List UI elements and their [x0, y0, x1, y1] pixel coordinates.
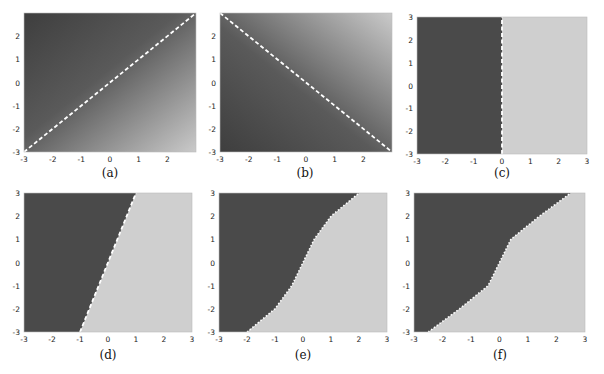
y-tick-label: -1	[209, 102, 217, 111]
caption-f: (f)	[480, 348, 520, 362]
panel-b: -3-2-1012-3-2-1012 (b)	[200, 0, 400, 187]
y-tick-label: -1	[208, 282, 216, 291]
x-tick-label: -2	[245, 155, 253, 164]
panel-e: -3-2-10123-3-2-10123 (e)	[200, 187, 400, 374]
y-tick-label: -1	[13, 102, 21, 111]
y-tick-label: 1	[210, 235, 215, 244]
x-tick-label: 0	[106, 335, 111, 344]
plot-c: -3-2-10123-3-2-10123	[400, 0, 604, 160]
x-tick-label: -2	[439, 335, 447, 344]
y-tick-label: -3	[406, 150, 414, 159]
y-tick-label: 3	[210, 189, 215, 198]
x-tick-label: -1	[76, 335, 84, 344]
y-tick-label: -1	[403, 282, 411, 291]
plot-f: -3-2-10123-3-2-10123	[400, 187, 604, 347]
y-tick-label: 3	[15, 189, 20, 198]
plot-b: -3-2-1012-3-2-1012	[200, 0, 400, 160]
y-tick-label: -3	[403, 328, 411, 337]
x-tick-label: 3	[385, 335, 390, 344]
y-tick-label: 1	[405, 235, 410, 244]
x-tick-label: -3	[20, 335, 28, 344]
x-tick-label: -3	[215, 335, 223, 344]
y-tick-label: 1	[15, 235, 20, 244]
x-tick-label: 0	[500, 157, 505, 166]
x-tick-label: 2	[361, 155, 366, 164]
panel-f: -3-2-10123-3-2-10123 (f)	[400, 187, 604, 374]
caption-b: (b)	[285, 166, 325, 180]
x-tick-label: 1	[329, 335, 334, 344]
y-tick-label: 1	[408, 59, 413, 68]
y-tick-label: -3	[13, 328, 21, 337]
x-tick-label: -1	[467, 335, 475, 344]
x-tick-label: -3	[20, 155, 28, 164]
y-tick-label: -2	[209, 125, 217, 134]
x-tick-label: -1	[274, 155, 282, 164]
panel-d: -3-2-10123-3-2-10123 (d)	[0, 187, 200, 374]
x-tick-label: 1	[332, 155, 337, 164]
y-tick-label: 2	[405, 212, 410, 221]
x-tick-label: -2	[48, 335, 56, 344]
x-tick-label: -2	[243, 335, 251, 344]
y-tick-label: 0	[211, 79, 216, 88]
x-tick-label: 2	[556, 157, 561, 166]
x-tick-label: 1	[526, 335, 531, 344]
y-tick-label: -3	[208, 328, 216, 337]
y-tick-label: -2	[403, 305, 411, 314]
y-tick-label: 2	[15, 212, 20, 221]
x-tick-label: -2	[49, 155, 57, 164]
y-tick-label: 3	[408, 13, 413, 22]
caption-e: (e)	[283, 348, 323, 362]
x-tick-label: 2	[357, 335, 362, 344]
y-tick-label: 0	[405, 259, 410, 268]
x-tick-label: 2	[162, 335, 167, 344]
panel-c: -3-2-10123-3-2-10123 (c)	[400, 0, 604, 187]
plot-d: -3-2-10123-3-2-10123	[0, 187, 200, 347]
y-tick-label: 2	[15, 32, 20, 41]
y-tick-label: 1	[211, 55, 216, 64]
y-tick-label: -1	[13, 282, 21, 291]
plot-e: -3-2-10123-3-2-10123	[200, 187, 400, 347]
y-tick-label: -2	[406, 127, 414, 136]
y-tick-label: -3	[209, 148, 217, 157]
y-tick-label: 0	[210, 259, 215, 268]
x-tick-label: 0	[301, 335, 306, 344]
caption-c: (c)	[482, 166, 522, 180]
x-tick-label: 1	[134, 335, 139, 344]
x-tick-label: -3	[216, 155, 224, 164]
x-tick-label: -2	[442, 157, 450, 166]
plot-a: -3-2-1012-3-2-1012	[0, 0, 200, 160]
x-tick-label: 1	[528, 157, 533, 166]
y-tick-label: 0	[15, 79, 20, 88]
x-tick-label: 0	[497, 335, 502, 344]
y-tick-label: 2	[210, 212, 215, 221]
caption-a: (a)	[90, 166, 130, 180]
x-tick-label: -3	[413, 157, 421, 166]
x-tick-label: 3	[585, 157, 590, 166]
y-tick-label: 0	[408, 82, 413, 91]
y-tick-label: -2	[13, 125, 21, 134]
y-tick-label: 3	[405, 189, 410, 198]
caption-d: (d)	[88, 348, 128, 362]
y-tick-label: -3	[13, 148, 21, 157]
x-tick-label: 2	[165, 155, 170, 164]
x-tick-label: 1	[136, 155, 141, 164]
dark-region	[417, 17, 502, 154]
x-tick-label: -3	[410, 335, 418, 344]
x-tick-label: -1	[470, 157, 478, 166]
y-tick-label: -2	[208, 305, 216, 314]
x-tick-label: 2	[554, 335, 559, 344]
y-tick-label: -1	[406, 104, 414, 113]
x-tick-label: 0	[304, 155, 309, 164]
y-tick-label: 1	[15, 55, 20, 64]
y-tick-label: 2	[211, 32, 216, 41]
x-tick-label: 3	[583, 335, 588, 344]
y-tick-label: -2	[13, 305, 21, 314]
x-tick-label: 3	[190, 335, 195, 344]
y-tick-label: 0	[15, 259, 20, 268]
x-tick-label: -1	[271, 335, 279, 344]
panel-a: -3-2-1012-3-2-1012 (a)	[0, 0, 200, 187]
x-tick-label: -1	[78, 155, 86, 164]
x-tick-label: 0	[108, 155, 113, 164]
y-tick-label: 2	[408, 36, 413, 45]
